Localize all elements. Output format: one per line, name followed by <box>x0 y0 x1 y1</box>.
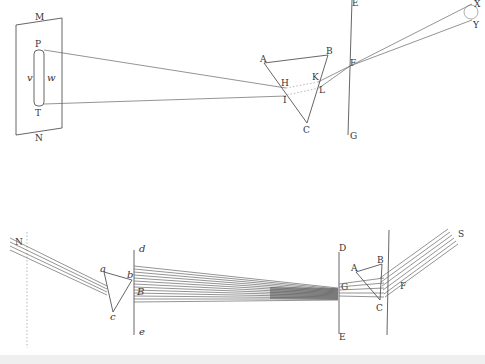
label-m: M <box>35 12 44 22</box>
optics-diagram: M N P T v w A B C H I K L E G F X <box>0 0 485 355</box>
label-c: C <box>303 125 310 135</box>
incoming-rays <box>10 238 107 295</box>
label-c-small: c <box>110 311 116 322</box>
label-e-small: e <box>139 326 145 337</box>
ray-p-h <box>44 50 286 88</box>
label-d: d <box>139 243 145 254</box>
label-l: L <box>319 85 325 95</box>
prism-abc-second <box>356 264 382 300</box>
label-s: S <box>458 229 464 239</box>
label-d-cap: D <box>339 243 346 253</box>
converging-ray-bundle <box>134 266 338 302</box>
internal-ray-i-l <box>287 88 319 95</box>
label-h: H <box>281 78 289 88</box>
exit-rays <box>380 229 458 297</box>
label-n2: N <box>15 237 23 247</box>
label-b-small: b <box>127 269 133 280</box>
ray-k-f <box>318 66 350 82</box>
label-e: E <box>352 0 359 8</box>
label-w: w <box>47 72 56 83</box>
label-n: N <box>35 133 43 143</box>
figure-1: M N P T v w A B C H I K L E G F X <box>16 0 481 143</box>
bottom-strip <box>0 355 485 364</box>
ray-f-y <box>350 20 472 66</box>
spectrum-pt <box>34 50 44 106</box>
label-t: T <box>35 108 41 118</box>
label-b: B <box>326 46 333 56</box>
label-b2: B <box>377 255 384 265</box>
ray-f-x <box>350 4 472 66</box>
label-e-cap: E <box>339 332 346 342</box>
ray-t-i <box>44 96 286 104</box>
label-x: X <box>474 0 481 9</box>
label-v: v <box>27 72 33 83</box>
label-a-small: a <box>100 263 106 274</box>
label-p: P <box>35 39 41 49</box>
label-g: G <box>350 131 357 141</box>
internal-ray-h-k <box>286 82 318 88</box>
label-c2: C <box>376 303 383 313</box>
label-y: Y <box>472 20 480 30</box>
label-k: K <box>312 72 319 82</box>
figure-2: N a b c d e B <box>10 229 464 348</box>
label-i: I <box>283 95 287 105</box>
label-a2: A <box>350 263 358 273</box>
label-a: A <box>259 54 267 64</box>
